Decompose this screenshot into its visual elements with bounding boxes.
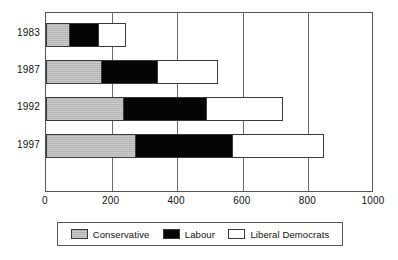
legend-item-liberal-democrats[interactable]: Liberal Democrats xyxy=(228,229,329,240)
bars-layer xyxy=(46,13,372,191)
y-axis-label-1997: 1997 xyxy=(0,139,40,150)
x-axis-tick-0: 0 xyxy=(42,195,48,206)
bar-segment-labour-1992[interactable] xyxy=(123,97,207,121)
legend-item-labour[interactable]: Labour xyxy=(163,229,215,240)
bar-segment-liberal-democrats-1997[interactable] xyxy=(232,134,324,158)
table-row[interactable] xyxy=(46,23,126,47)
y-axis-label-1987: 1987 xyxy=(0,64,40,75)
y-axis-label-1992: 1992 xyxy=(0,101,40,112)
bar-segment-liberal-democrats-1992[interactable] xyxy=(206,97,283,121)
bar-segment-liberal-democrats-1987[interactable] xyxy=(157,60,218,84)
legend-item-conservative[interactable]: Conservative xyxy=(71,229,150,240)
x-axis-tick-400: 400 xyxy=(168,195,185,206)
liberal-democrats-swatch-icon xyxy=(228,229,245,239)
plot-area xyxy=(45,12,373,192)
bar-segment-conservative-1983[interactable] xyxy=(46,23,70,47)
x-axis-tick-600: 600 xyxy=(233,195,250,206)
legend: Conservative Labour Liberal Democrats xyxy=(57,222,343,246)
labour-swatch-icon xyxy=(163,229,180,239)
legend-label-labour: Labour xyxy=(185,229,215,240)
bar-segment-conservative-1992[interactable] xyxy=(46,97,124,121)
legend-label-conservative: Conservative xyxy=(93,229,150,240)
legend-label-liberal-democrats: Liberal Democrats xyxy=(250,229,329,240)
table-row[interactable] xyxy=(46,60,218,84)
bar-segment-conservative-1987[interactable] xyxy=(46,60,102,84)
bar-segment-labour-1997[interactable] xyxy=(135,134,233,158)
table-row[interactable] xyxy=(46,134,324,158)
bar-segment-labour-1987[interactable] xyxy=(101,60,158,84)
x-axis-tick-200: 200 xyxy=(102,195,119,206)
bar-segment-conservative-1997[interactable] xyxy=(46,134,136,158)
chart-container: 1983 1987 1992 1997 xyxy=(0,0,398,260)
conservative-swatch-icon xyxy=(71,229,88,239)
bar-segment-liberal-democrats-1983[interactable] xyxy=(98,23,127,47)
table-row[interactable] xyxy=(46,97,283,121)
y-axis-label-1983: 1983 xyxy=(0,27,40,38)
x-axis-tick-1000: 1000 xyxy=(361,195,384,206)
bar-segment-labour-1983[interactable] xyxy=(69,23,99,47)
x-axis-tick-800: 800 xyxy=(299,195,316,206)
